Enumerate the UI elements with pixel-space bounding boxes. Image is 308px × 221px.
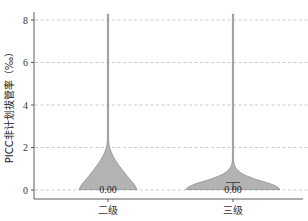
y-axis-label: PICC非计划拔管率（‰） [3, 47, 15, 163]
x-tick-erji: 二级 [98, 205, 118, 216]
y-tick-0: 0 [23, 185, 28, 196]
y-tick-4: 4 [23, 100, 28, 111]
median-label-sanji: 0.00 [224, 184, 242, 195]
y-tick-2: 2 [23, 142, 28, 153]
y-tick-6: 6 [23, 57, 28, 68]
y-ticks [31, 20, 34, 190]
violin-sanji [186, 14, 280, 190]
gridlines [35, 20, 308, 190]
x-ticks [108, 199, 233, 202]
y-tick-8: 8 [23, 15, 28, 26]
chart-canvas: 0.00 0.00 0 2 4 6 8 二级 三级 PICC非计划拔管率（‰） [0, 0, 308, 221]
violin-chart: 0.00 0.00 0 2 4 6 8 二级 三级 PICC非计划拔管率（‰） [0, 0, 308, 221]
median-label-erji: 0.00 [99, 184, 117, 195]
x-tick-sanji: 三级 [223, 205, 243, 216]
violin-erji [79, 14, 137, 190]
